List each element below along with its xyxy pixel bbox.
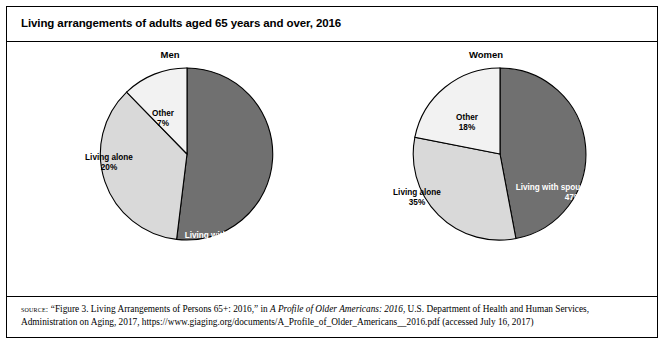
- charts-area: Men Living with spouse or partner 73% Li…: [7, 41, 657, 296]
- slice-label-women-spouse: Living with spouse or partner 47%: [513, 183, 633, 202]
- source-italic-title: A Profile of Older Americans: 2016: [270, 304, 403, 314]
- slice-label-women-other-value: 18%: [441, 123, 493, 133]
- slice-label-men-alone-value: 20%: [67, 163, 151, 173]
- pie-women-wrap: Living with spouse or partner 47% Living…: [323, 41, 649, 296]
- slice-label-women-other-name: Other: [441, 113, 493, 123]
- slice-label-men-spouse: Living with spouse or partner 73%: [147, 231, 337, 250]
- slice-women-spouse: [500, 68, 586, 239]
- pie-chart-women: Women Living with spouse or partner 47% …: [323, 41, 649, 296]
- slice-label-women-spouse-value: 47%: [513, 193, 633, 203]
- source-divider: [7, 296, 657, 297]
- slice-label-women-alone-value: 35%: [375, 198, 459, 208]
- slice-label-women-alone-name: Living alone: [375, 188, 459, 198]
- figure-frame: Living arrangements of adults aged 65 ye…: [6, 6, 658, 338]
- title-bar: Living arrangements of adults aged 65 ye…: [7, 7, 657, 41]
- slice-label-men-spouse-value: 73%: [147, 241, 337, 251]
- slice-label-women-alone: Living alone 35%: [375, 188, 459, 207]
- slice-label-men-other: Other 7%: [137, 109, 189, 128]
- pie-women-svg: [410, 64, 590, 244]
- pie-men-wrap: Living with spouse or partner 73% Living…: [7, 41, 333, 296]
- slice-label-men-other-name: Other: [137, 109, 189, 119]
- slice-label-men-spouse-name: Living with spouse or partner: [147, 231, 337, 241]
- slice-men-spouse: [177, 68, 273, 240]
- slice-label-men-alone: Living alone 20%: [67, 153, 151, 172]
- slice-label-men-other-value: 7%: [137, 119, 189, 129]
- page-title: Living arrangements of adults aged 65 ye…: [21, 17, 341, 29]
- slice-label-men-alone-name: Living alone: [67, 153, 151, 163]
- slice-label-women-spouse-name: Living with spouse or partner: [513, 183, 633, 193]
- pie-chart-men: Men Living with spouse or partner 73% Li…: [7, 41, 333, 296]
- source-note: source: “Figure 3. Living Arrangements o…: [21, 303, 643, 330]
- source-part1: “Figure 3. Living Arrangements of Person…: [48, 304, 270, 314]
- slice-label-women-other: Other 18%: [441, 113, 493, 132]
- source-kicker: source:: [21, 304, 48, 314]
